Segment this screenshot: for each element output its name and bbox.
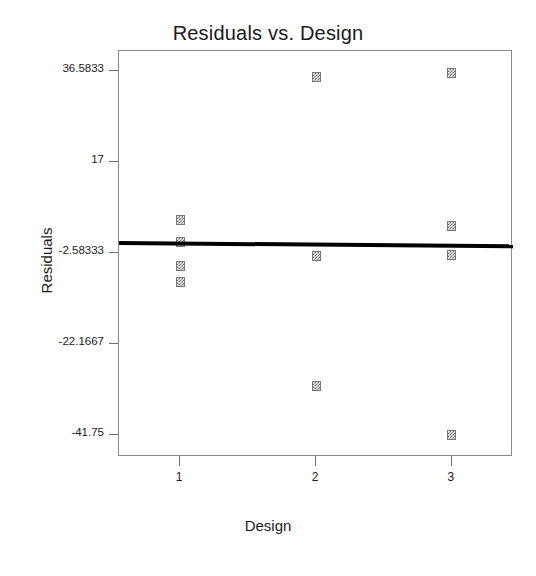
y-axis-label: Residuals — [38, 201, 55, 321]
residuals-scatter-chart: Residuals vs. Design Residuals Design 36… — [0, 0, 536, 576]
y-tick-mark — [109, 434, 118, 435]
x-tick-label: 1 — [159, 470, 199, 484]
chart-title: Residuals vs. Design — [0, 22, 536, 45]
y-tick-mark — [109, 252, 118, 253]
x-tick-mark — [451, 456, 452, 466]
x-tick-label: 2 — [295, 470, 335, 484]
regression-line — [119, 241, 513, 248]
y-tick-label: 17 — [18, 153, 104, 165]
data-point — [312, 381, 321, 391]
x-axis-label: Design — [0, 517, 536, 534]
y-tick-label: -2.58333 — [18, 244, 104, 256]
data-point — [447, 430, 456, 440]
y-tick-label: 36.5833 — [18, 62, 104, 74]
y-tick-mark — [109, 70, 118, 71]
plot-area — [118, 50, 512, 456]
data-point — [447, 221, 456, 231]
y-tick-label: -41.75 — [18, 426, 104, 438]
y-tick-label: -22.1667 — [18, 335, 104, 347]
data-point — [176, 215, 185, 225]
x-tick-mark — [315, 456, 316, 466]
x-tick-label: 3 — [431, 470, 471, 484]
data-point — [447, 250, 456, 260]
data-point — [176, 261, 185, 271]
data-point — [447, 68, 456, 78]
data-point — [312, 72, 321, 82]
x-tick-mark — [179, 456, 180, 466]
y-tick-mark — [109, 343, 118, 344]
data-point — [176, 277, 185, 287]
y-tick-mark — [109, 161, 118, 162]
data-point — [312, 251, 321, 261]
